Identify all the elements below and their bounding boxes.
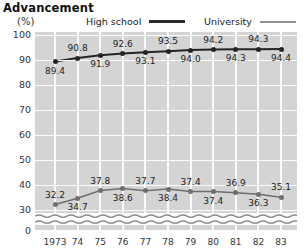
legend-line-university — [260, 21, 296, 23]
wave-break-icon — [35, 213, 297, 225]
data-point-label: 94.4 — [268, 53, 294, 63]
y-axis-tick-label: 100 — [0, 29, 31, 40]
data-point-label: 37.4 — [200, 196, 226, 206]
data-point-label: 93.5 — [155, 36, 181, 46]
y-axis-tick-label: 70 — [0, 104, 31, 115]
data-point-label: 92.6 — [110, 39, 136, 49]
data-point-marker — [211, 189, 216, 194]
data-point-label: 94.3 — [223, 53, 249, 63]
data-point-marker — [256, 47, 261, 52]
data-point-label: 38.4 — [155, 193, 181, 203]
legend-label-university: University — [204, 16, 252, 27]
data-point-label: 32.2 — [42, 190, 68, 200]
x-axis-tick-label: 83 — [268, 237, 294, 247]
y-axis-tick-label: 40 — [0, 179, 31, 190]
data-point-label: 37.7 — [132, 176, 158, 186]
data-point-marker — [98, 53, 103, 58]
data-point-label: 91.9 — [87, 59, 113, 69]
data-point-label: 34.7 — [65, 202, 91, 212]
axis-break-wave — [35, 213, 297, 225]
data-point-label: 38.6 — [110, 193, 136, 203]
page-title: Advancement — [3, 1, 94, 15]
legend-item-high-school: High school — [86, 15, 185, 27]
y-axis-tick-label: 0 — [0, 225, 31, 236]
legend-label-high-school: High school — [86, 16, 141, 27]
data-point-label: 37.4 — [178, 177, 204, 187]
data-point-label: 90.8 — [65, 43, 91, 53]
data-point-label: 94.0 — [178, 54, 204, 64]
data-point-marker — [256, 192, 261, 197]
data-point-label: 89.4 — [42, 66, 68, 76]
y-axis-tick-label: 80 — [0, 79, 31, 90]
data-point-marker — [166, 49, 171, 54]
data-point-marker — [166, 187, 171, 192]
y-axis-tick-label: 50 — [0, 154, 31, 165]
y-axis-tick-label: 30 — [0, 204, 31, 215]
data-point-marker — [75, 56, 80, 61]
chart-container: Advancement (%) High school University 1… — [0, 0, 304, 251]
data-point-label: 93.1 — [132, 56, 158, 66]
data-point-marker — [53, 202, 58, 207]
data-point-marker — [279, 195, 284, 200]
data-point-label: 94.3 — [245, 34, 271, 44]
y-axis-tick-label: 90 — [0, 54, 31, 65]
data-point-marker — [53, 59, 58, 64]
y-axis-tick-label: 60 — [0, 129, 31, 140]
data-point-marker — [211, 47, 216, 52]
data-point-label: 37.8 — [87, 176, 113, 186]
data-point-label: 36.3 — [245, 198, 271, 208]
legend-line-high-school — [149, 20, 185, 23]
data-point-marker — [188, 48, 193, 53]
data-point-label: 35.1 — [268, 182, 294, 192]
data-point-marker — [279, 47, 284, 52]
data-point-marker — [143, 50, 148, 55]
data-point-marker — [75, 196, 80, 201]
data-point-marker — [98, 188, 103, 193]
data-point-label: 94.2 — [200, 35, 226, 45]
legend-item-university: University — [204, 15, 296, 27]
data-point-label: 36.9 — [223, 178, 249, 188]
y-axis-unit-label: (%) — [17, 16, 34, 27]
